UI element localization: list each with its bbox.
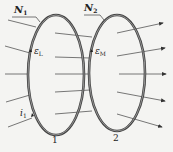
coil-2-turns-label: N2 xyxy=(84,3,97,14)
coil-2 xyxy=(89,15,145,131)
coils-field-lines xyxy=(0,0,173,152)
emf-m-label: εM xyxy=(95,47,106,57)
coil-2-number: 2 xyxy=(113,134,119,143)
diagram-canvas: N1 N2 εL εM i1 1 2 xyxy=(0,0,173,152)
coil-1-number: 1 xyxy=(52,136,58,145)
current-label: i1 xyxy=(20,109,27,119)
coil-1-turns-label: N1 xyxy=(14,5,27,16)
emf-l-label: εL xyxy=(34,47,43,57)
